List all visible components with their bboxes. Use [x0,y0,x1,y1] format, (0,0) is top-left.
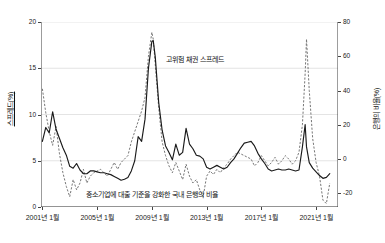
y-right-tick-mark [338,56,341,57]
y-right-tick-label: 80 [343,18,359,25]
y-right-tick-label: -20 [343,189,359,196]
annotation-bank-tightening-ratio: 중소기업에 대출 기준을 강화한 국내 은행의 비율 [86,189,218,199]
y-right-tick-mark [338,91,341,92]
y-left-tick-label: 5 [21,157,36,164]
y-right-tick-label: 0 [343,155,359,162]
y-right-tick-label: 20 [343,121,359,128]
x-tick-label: 2013년 1월 [179,212,235,222]
plot-area [41,22,338,207]
y-right-tick-mark [338,159,341,160]
x-tick-mark [42,207,43,210]
x-tick-label: 2001년 1월 [14,212,70,222]
y-right-tick-mark [338,22,341,23]
x-tick-mark [316,207,317,210]
annotation-high-risk-bond-spread: 고위험 채권 스프레드 [166,54,224,64]
y-right-tick-mark [338,193,341,194]
x-tick-mark [152,207,153,210]
y-right-tick-label: 40 [343,87,359,94]
x-tick-mark [97,207,98,210]
plot-svg [41,22,338,207]
y-left-tick-label: 0 [21,203,36,210]
chart-container: 스프레드(%) 은행의 비율(%) 05101520 -20020406080 … [0,0,385,243]
y-left-tick-label: 15 [21,64,36,71]
x-tick-label: 2017년 1월 [233,212,289,222]
y-left-tick-label: 20 [21,18,36,25]
y-axis-left-title: 스프레드(%) [5,79,15,139]
y-left-tick-label: 10 [21,111,36,118]
gridlines [41,22,338,207]
x-tick-label: 2009년 1월 [124,212,180,222]
x-tick-mark [261,207,262,210]
y-left-tick-mark [38,207,41,208]
y-right-tick-mark [338,125,341,126]
x-tick-label: 2021년 1월 [288,212,344,222]
y-axis-right-title: 은행의 비율(%) [371,75,381,143]
x-tick-mark [207,207,208,210]
y-right-tick-label: 60 [343,52,359,59]
x-tick-label: 2005년 1월 [69,212,125,222]
